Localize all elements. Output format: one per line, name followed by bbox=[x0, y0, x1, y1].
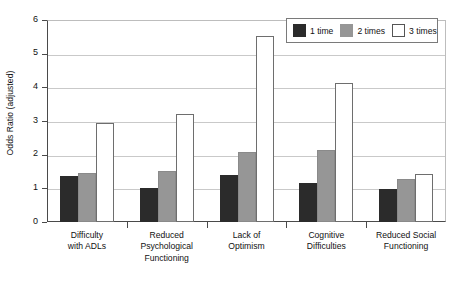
legend-item: 2 times bbox=[340, 24, 385, 37]
bar bbox=[379, 189, 397, 222]
legend-item: 3 times bbox=[392, 24, 437, 37]
bar bbox=[335, 83, 353, 222]
legend-label-3-times: 3 times bbox=[409, 26, 437, 36]
bar bbox=[415, 174, 433, 222]
x-axis-label-line: Difficulty bbox=[41, 230, 133, 241]
bar-group bbox=[60, 20, 114, 222]
x-axis-tick-mark bbox=[366, 222, 367, 228]
x-axis-label: CognitiveDifficulties bbox=[280, 230, 372, 253]
x-axis-label-line: Functioning bbox=[360, 241, 452, 252]
bar bbox=[96, 123, 114, 222]
bar bbox=[220, 175, 238, 222]
bar-group bbox=[299, 20, 353, 222]
y-axis-tick-label: 6 bbox=[33, 14, 38, 24]
bar-group bbox=[379, 20, 433, 222]
y-axis-tick-label: 1 bbox=[33, 182, 38, 192]
legend-item: 1 time bbox=[293, 24, 333, 37]
bar bbox=[317, 150, 335, 222]
x-axis-label-line: Functioning bbox=[121, 253, 213, 264]
bar bbox=[238, 152, 256, 222]
legend-swatch-1-time bbox=[293, 24, 306, 37]
x-axis-label-line: Psychological bbox=[121, 241, 213, 252]
bar bbox=[158, 171, 176, 223]
x-axis-label-line: with ADLs bbox=[41, 241, 133, 252]
y-axis-tick-mark bbox=[42, 222, 47, 223]
bar bbox=[256, 36, 274, 222]
x-axis-labels: Difficultywith ADLsReducedPsychologicalF… bbox=[47, 230, 446, 290]
x-axis-label: Difficultywith ADLs bbox=[41, 230, 133, 253]
bar bbox=[176, 114, 194, 222]
x-axis-label-line: Cognitive bbox=[280, 230, 372, 241]
legend-label-2-times: 2 times bbox=[357, 26, 385, 36]
legend-swatch-2-times bbox=[340, 24, 353, 37]
x-axis-tick-mark bbox=[286, 222, 287, 228]
bar-groups bbox=[47, 20, 446, 222]
bar bbox=[299, 183, 317, 222]
y-axis-tick-label: 0 bbox=[33, 216, 38, 226]
y-axis-tick-label: 3 bbox=[33, 115, 38, 125]
x-axis-label: ReducedPsychologicalFunctioning bbox=[121, 230, 213, 264]
x-axis-label-line: Lack of bbox=[201, 230, 293, 241]
y-axis-tick-label: 5 bbox=[33, 47, 38, 57]
x-axis-label-line: Reduced bbox=[121, 230, 213, 241]
x-axis-tick-mark bbox=[207, 222, 208, 228]
x-axis-label: Lack ofOptimism bbox=[201, 230, 293, 253]
legend: 1 time 2 times 3 times bbox=[286, 18, 438, 43]
y-axis-title-text: Odds Ratio (adjusted) bbox=[5, 71, 15, 156]
bar bbox=[397, 179, 415, 222]
x-axis-label-line: Difficulties bbox=[280, 241, 372, 252]
y-axis-tick-label: 4 bbox=[33, 81, 38, 91]
legend-label-1-time: 1 time bbox=[310, 26, 333, 36]
x-axis-label-line: Optimism bbox=[201, 241, 293, 252]
bar bbox=[60, 176, 78, 222]
bar bbox=[78, 173, 96, 222]
y-axis-tick-label: 2 bbox=[33, 148, 38, 158]
legend-swatch-3-times bbox=[392, 24, 405, 37]
x-axis-label-line: Reduced Social bbox=[360, 230, 452, 241]
bar-group bbox=[220, 20, 274, 222]
x-axis-tick-mark bbox=[127, 222, 128, 228]
bar-chart: Odds Ratio (adjusted) 0123456 Difficulty… bbox=[0, 0, 459, 291]
y-axis-title: Odds Ratio (adjusted) bbox=[0, 0, 20, 226]
bar bbox=[140, 188, 158, 222]
bar-group bbox=[140, 20, 194, 222]
x-axis-label: Reduced SocialFunctioning bbox=[360, 230, 452, 253]
